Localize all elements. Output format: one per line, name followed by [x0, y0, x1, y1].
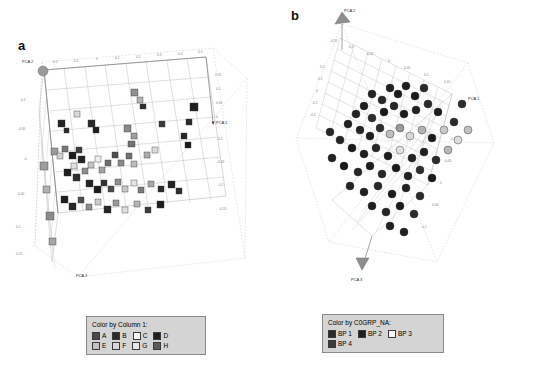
panel-a-axis-title-pca3: PCA 3 [76, 273, 88, 278]
legend-label-f: F [122, 341, 126, 350]
legend-label-e: E [102, 341, 106, 350]
legend-panel-b: Color by C0GRP_NA: BP 1 BP 2 BP 3 [322, 314, 444, 353]
svg-text:0.1: 0.1 [424, 73, 429, 77]
svg-text:-0.05: -0.05 [444, 159, 451, 163]
svg-text:-0.2: -0.2 [310, 113, 316, 117]
panel-a-plot: PCA 2 PCA 1 PCA 3 -0.2 -0.1 0 0.1 0.2 0.… [0, 0, 272, 300]
legend-item-h[interactable]: H [153, 341, 168, 350]
svg-text:0.3: 0.3 [157, 53, 162, 57]
legend-a-title: Color by Column 1: [92, 320, 200, 329]
legend-item-b[interactable]: B [112, 331, 126, 340]
legend-label-b: B [122, 331, 126, 340]
svg-text:0.1: 0.1 [115, 56, 120, 60]
legend-swatch-bp2 [358, 330, 366, 338]
svg-text:0.4: 0.4 [178, 52, 183, 56]
legend-swatch-e [92, 342, 100, 350]
svg-text:0: 0 [96, 57, 98, 61]
legend-item-bp1[interactable]: BP 1 [328, 329, 352, 338]
svg-text:-0.1: -0.1 [73, 59, 79, 63]
svg-text:0.2: 0.2 [136, 55, 141, 59]
svg-text:0.1: 0.1 [318, 77, 323, 81]
svg-text:-0.1: -0.1 [218, 183, 224, 187]
legend-item-bp4[interactable]: BP 4 [328, 339, 352, 348]
legend-item-a[interactable]: A [92, 331, 106, 340]
panel-b-axis-title-pca2: PCA 2 [344, 8, 356, 13]
legend-swatch-a [92, 332, 100, 340]
legend-swatch-c [133, 332, 141, 340]
legend-label-bp2: BP 2 [368, 329, 382, 338]
legend-panel-a: Color by Column 1: A B C D [86, 316, 206, 355]
svg-text:-0: -0 [24, 157, 27, 161]
svg-text:0.05: 0.05 [404, 66, 410, 70]
legend-item-f[interactable]: F [112, 341, 126, 350]
legend-label-bp3: BP 3 [398, 329, 412, 338]
legend-label-g: G [142, 341, 147, 350]
legend-a-row-1: A B C D [92, 331, 200, 340]
legend-item-g[interactable]: G [132, 341, 147, 350]
svg-text:-0.15: -0.15 [330, 39, 337, 43]
panel-b-axis-title-pca1: PCA 1 [468, 96, 480, 101]
pca2-arrow-marker [335, 12, 350, 24]
legend-b-title: Color by C0GRP_NA: [328, 318, 438, 327]
svg-text:0.15: 0.15 [215, 73, 221, 77]
legend-swatch-h [153, 342, 161, 350]
svg-text:-0.2: -0.2 [52, 60, 58, 64]
figure-root: a [0, 0, 543, 388]
svg-text:0: 0 [388, 59, 390, 63]
legend-swatch-bp3 [388, 330, 396, 338]
panel-a-zticks: -0.1 -0.05 -0 0.05 0.1 0.15 [16, 98, 27, 256]
svg-text:-0.1: -0.1 [312, 101, 318, 105]
legend-item-c[interactable]: C [133, 331, 148, 340]
svg-text:0.5: 0.5 [198, 50, 203, 54]
svg-text:-0.05: -0.05 [217, 160, 224, 164]
svg-text:0: 0 [316, 89, 318, 93]
legend-item-bp3[interactable]: BP 3 [388, 329, 412, 338]
legend-label-h: H [163, 341, 168, 350]
legend-a-row-2: E F G H [92, 341, 200, 350]
panel-b-axis-title-pca3: PCA 3 [351, 277, 363, 282]
svg-text:-0.1: -0.1 [217, 137, 223, 141]
svg-text:0.15: 0.15 [444, 80, 450, 84]
panel-a-yticks: -0.2 -0.1 0 0.1 0.2 0.3 0.4 0.5 [52, 50, 203, 64]
legend-swatch-f [112, 342, 120, 350]
legend-item-bp2[interactable]: BP 2 [358, 329, 382, 338]
legend-item-d[interactable]: D [153, 331, 168, 340]
legend-label-c: C [143, 331, 148, 340]
legend-b-row-1: BP 1 BP 2 BP 3 [328, 329, 438, 338]
legend-label-d: D [163, 331, 168, 340]
panel-a-axis-title-pca2: PCA 2 [22, 59, 34, 64]
svg-text:-0.1: -0.1 [20, 98, 26, 102]
legend-label-bp4: BP 4 [338, 339, 352, 348]
legend-item-e[interactable]: E [92, 341, 106, 350]
panel-b-plot: PCA 2 PCA 3 PCA 1 -0.15 -0.1 -0.05 0 0.0… [272, 0, 543, 300]
svg-text:0.1: 0.1 [422, 225, 427, 229]
svg-text:-0.05: -0.05 [366, 52, 373, 56]
panel-a-axis-title-pca1: PCA 1 [216, 120, 228, 125]
svg-text:0: 0 [216, 115, 218, 119]
pca3-arrow-marker [356, 258, 369, 270]
svg-text:0.05: 0.05 [18, 192, 24, 196]
legend-swatch-bp4 [328, 340, 336, 348]
svg-text:0.15: 0.15 [16, 252, 22, 256]
panel-a: a [0, 0, 272, 300]
svg-text:0.05: 0.05 [432, 203, 438, 207]
svg-text:0.1: 0.1 [216, 87, 221, 91]
svg-text:-0.15: -0.15 [219, 207, 226, 211]
legend-swatch-g [132, 342, 140, 350]
panel-b-yticks: -0.15 -0.1 -0.05 0 0.05 0.1 0.15 [330, 39, 450, 84]
panel-a-data-points [40, 89, 198, 245]
svg-text:-0.1: -0.1 [348, 45, 354, 49]
pca2-origin-marker [38, 66, 48, 76]
legend-b-row-2: BP 4 [328, 339, 438, 348]
panel-a-xticks: 0.15 0.1 0.05 0 -0.1 -0.05 -0.1 -0.15 [215, 73, 226, 211]
svg-text:0.2: 0.2 [320, 65, 325, 69]
svg-text:-0.05: -0.05 [18, 127, 25, 131]
legend-swatch-b [112, 332, 120, 340]
svg-text:0.05: 0.05 [216, 101, 222, 105]
legend-swatch-bp1 [328, 330, 336, 338]
svg-text:0: 0 [440, 181, 442, 185]
panel-b: b [272, 0, 543, 300]
legend-label-bp1: BP 1 [338, 329, 352, 338]
svg-text:0.1: 0.1 [16, 225, 21, 229]
legend-label-a: A [102, 331, 106, 340]
